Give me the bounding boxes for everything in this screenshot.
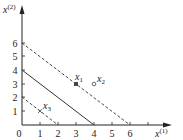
- y-tick-label: 5: [13, 51, 18, 62]
- x-tick-label: 1: [38, 128, 43, 139]
- point-x1-marker-icon: [74, 82, 78, 86]
- y-tick-label: 3: [13, 79, 18, 90]
- diagram: 0 1 2 3 4 5 6 1 2 3 4 5 6 x(1) x(2) x1 x…: [0, 0, 183, 140]
- x-tick-label: 2: [56, 128, 61, 139]
- point-x3-label: x3: [42, 100, 51, 113]
- x-tick-label: 5: [110, 128, 115, 139]
- x-tick-label: 3: [74, 128, 79, 139]
- point-x2-label: x2: [96, 73, 105, 86]
- x-axis-label: x(1): [154, 127, 168, 139]
- line-x1-plus-x2-eq-4: [22, 70, 94, 125]
- y-tick-label: 2: [13, 92, 18, 103]
- x-tick-label: 0: [17, 128, 22, 139]
- y-tick-label: 1: [13, 106, 18, 117]
- point-x3-marker-icon: [38, 109, 42, 113]
- y-axis-label: x(2): [2, 3, 16, 15]
- y-axis-arrow-icon: [20, 5, 25, 14]
- x-tick-label: 4: [92, 128, 97, 139]
- point-x2-marker-icon: [92, 82, 96, 86]
- y-tick-label: 6: [13, 38, 18, 49]
- y-tick-label: 4: [13, 65, 18, 76]
- x-tick-label: 6: [128, 128, 133, 139]
